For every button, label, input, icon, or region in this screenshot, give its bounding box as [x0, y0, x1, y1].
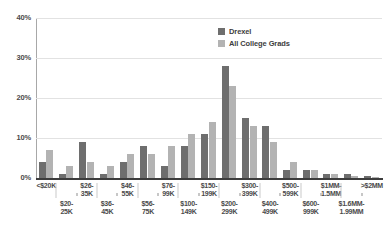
- bar-drexel: [201, 134, 208, 178]
- x-tick-label-line2: 55K: [121, 190, 134, 198]
- bar-all-college-grads: [311, 170, 318, 178]
- x-label-separator: [158, 193, 159, 196]
- bar-drexel: [344, 174, 351, 178]
- bar-all-college-grads: [168, 146, 175, 178]
- bar-all-college-grads: [127, 154, 134, 178]
- x-tick-label-line2: 75K: [141, 208, 154, 216]
- x-label-separator: [137, 183, 138, 198]
- x-tick-label-line1: <$20K: [36, 182, 56, 189]
- bar-all-college-grads: [372, 177, 379, 178]
- bar-all-college-grads: [270, 142, 277, 178]
- x-label-separator: [56, 183, 57, 198]
- x-tick-label-line2: 99K: [162, 190, 175, 198]
- bar-all-college-grads: [188, 134, 195, 178]
- x-tick-label: $36-45K: [101, 200, 114, 216]
- bar-group: [201, 18, 218, 178]
- bar-drexel: [100, 174, 107, 178]
- y-tick-label: 10%: [17, 134, 31, 142]
- bar-all-college-grads: [209, 122, 216, 178]
- bar-group: [59, 18, 76, 178]
- bar-drexel: [262, 126, 269, 178]
- bar-drexel: [364, 176, 371, 178]
- x-tick-label-line1: $200-: [221, 200, 238, 207]
- bar-drexel: [303, 170, 310, 178]
- bar-chart: 0%10%20%30%40% DrexelAll College Grads <…: [0, 0, 386, 229]
- legend: DrexelAll College Grads: [218, 26, 348, 50]
- bar-group: [39, 18, 56, 178]
- x-tick-label-line1: $400-: [262, 200, 279, 207]
- y-tick-label: 20%: [17, 94, 31, 102]
- legend-label: Drexel: [229, 27, 251, 36]
- x-tick-label: $150-199K: [201, 182, 218, 198]
- x-tick-label-line2: 35K: [80, 190, 93, 198]
- x-tick-label-line1: $150-: [201, 182, 218, 189]
- x-tick-label-line2: 1.99MM: [339, 208, 365, 216]
- x-tick-label-line2: 25K: [60, 208, 73, 216]
- bar-group: [161, 18, 178, 178]
- legend-swatch-icon: [218, 28, 225, 35]
- bar-all-college-grads: [229, 86, 236, 178]
- bar-all-college-grads: [331, 174, 338, 178]
- bar-drexel: [222, 66, 229, 178]
- bar-drexel: [161, 166, 168, 178]
- bar-drexel: [323, 174, 330, 178]
- legend-label: All College Grads: [229, 39, 290, 48]
- y-axis: 0%10%20%30%40%: [0, 0, 34, 229]
- x-label-separator: [219, 183, 220, 198]
- x-tick-label-line1: $36-: [101, 200, 114, 207]
- bar-all-college-grads: [148, 154, 155, 178]
- legend-item[interactable]: Drexel: [218, 26, 348, 37]
- bar-group: [140, 18, 157, 178]
- x-label-separator: [320, 193, 321, 196]
- x-tick-label-line1: $600-: [302, 200, 319, 207]
- bar-drexel: [59, 174, 66, 178]
- x-label-separator: [239, 193, 240, 196]
- x-label-separator: [280, 193, 281, 196]
- bar-drexel: [79, 142, 86, 178]
- x-tick-label-line1: $1.6MM-: [339, 200, 365, 207]
- x-tick-label-line2: 1.5MM: [321, 190, 342, 198]
- x-tick-label-line2: 199K: [201, 190, 218, 198]
- bar-drexel: [120, 162, 127, 178]
- x-label-separator: [259, 183, 260, 198]
- x-tick-label: <$20K: [36, 182, 56, 190]
- x-tick-label-line1: $500-: [282, 182, 299, 189]
- x-tick-label-line2: 499K: [262, 208, 279, 216]
- x-tick-label-line2: 999K: [302, 208, 319, 216]
- bar-drexel: [283, 170, 290, 178]
- legend-item[interactable]: All College Grads: [218, 38, 348, 49]
- x-label-separator: [341, 183, 342, 198]
- x-tick-label: $26-35K: [80, 182, 93, 198]
- bar-group: [181, 18, 198, 178]
- x-label-separator: [300, 183, 301, 198]
- x-tick-label-line2: 599K: [282, 190, 299, 198]
- x-label-separator: [198, 193, 199, 196]
- x-tick-label: $1.6MM-1.99MM: [339, 200, 365, 216]
- x-tick-label: $300-399K: [241, 182, 258, 198]
- x-tick-label-line2: 299K: [221, 208, 238, 216]
- x-tick-label: $76-99K: [162, 182, 175, 198]
- x-tick-label: $500-599K: [282, 182, 299, 198]
- legend-swatch-icon: [218, 40, 225, 47]
- bar-drexel: [242, 118, 249, 178]
- x-tick-label: $100-149K: [180, 200, 197, 216]
- x-tick-label-line1: $76-: [162, 182, 175, 189]
- x-tick-label-line1: $46-: [121, 182, 134, 189]
- bar-group: [100, 18, 117, 178]
- x-tick-label-line1: $300-: [241, 182, 258, 189]
- x-tick-label-line1: $1MM-: [321, 182, 342, 189]
- y-tick-label: 0%: [21, 174, 31, 182]
- x-tick-label: $20-25K: [60, 200, 73, 216]
- x-label-separator: [117, 193, 118, 196]
- bar-all-college-grads: [290, 162, 297, 178]
- x-tick-label-line1: $56-: [141, 200, 154, 207]
- x-tick-label-line2: 399K: [241, 190, 258, 198]
- x-label-separator: [76, 193, 77, 196]
- bar-all-college-grads: [351, 176, 358, 178]
- x-tick-label-line2: 45K: [101, 208, 114, 216]
- y-tick-label: 30%: [17, 54, 31, 62]
- x-tick-label-line1: $26-: [80, 182, 93, 189]
- bar-drexel: [39, 162, 46, 178]
- bar-all-college-grads: [66, 166, 73, 178]
- bar-all-college-grads: [87, 162, 94, 178]
